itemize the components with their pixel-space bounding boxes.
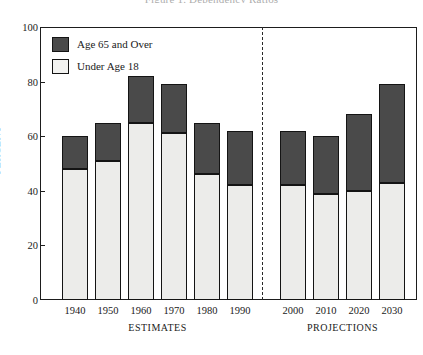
y-tick-label-40: 40 — [0, 185, 38, 196]
x-tick-label-2000: 2000 — [283, 305, 304, 316]
x-tick-label-1960: 1960 — [131, 305, 152, 316]
bar-2030 — [379, 84, 405, 300]
x-tick-label-2030: 2030 — [382, 305, 403, 316]
bar-segment-young-1990 — [227, 185, 253, 300]
bar-segment-old-1940 — [62, 136, 88, 169]
bar-segment-young-1970 — [161, 133, 187, 300]
x-tick-label-1980: 1980 — [197, 305, 218, 316]
bar-segment-young-2030 — [379, 183, 405, 300]
legend-swatch-old-icon — [52, 37, 69, 52]
bar-2010 — [313, 136, 339, 300]
bar-segment-young-1960 — [128, 123, 154, 300]
bar-segment-young-1940 — [62, 169, 88, 300]
x-tick-label-1990: 1990 — [230, 305, 251, 316]
bar-segment-old-2020 — [346, 114, 372, 190]
bar-segment-old-1950 — [95, 123, 121, 161]
y-tick-label-0: 0 — [0, 295, 38, 306]
legend-item-old: Age 65 and Over — [52, 36, 152, 52]
bar-1970 — [161, 84, 187, 300]
y-tick-label-20: 20 — [0, 240, 38, 251]
chart-root: Figure 1. Dependency Ratios PERCENT 0204… — [0, 0, 423, 355]
bar-segment-young-2020 — [346, 191, 372, 300]
x-tick-label-1950: 1950 — [98, 305, 119, 316]
bar-1940 — [62, 136, 88, 300]
bar-segment-old-2010 — [313, 136, 339, 193]
group-label-estimates: ESTIMATES — [128, 322, 186, 333]
x-tick-label-1970: 1970 — [164, 305, 185, 316]
bar-segment-young-2010 — [313, 194, 339, 300]
bar-1980 — [194, 123, 220, 300]
x-tick-label-2020: 2020 — [349, 305, 370, 316]
bar-2000 — [280, 131, 306, 300]
y-tick-label-80: 80 — [0, 76, 38, 87]
bar-2020 — [346, 114, 372, 300]
bar-segment-young-2000 — [280, 185, 306, 300]
bar-1960 — [128, 76, 154, 300]
bar-segment-old-1970 — [161, 84, 187, 133]
bar-segment-old-1980 — [194, 123, 220, 175]
y-tick-label-100: 100 — [0, 22, 38, 33]
legend: Age 65 and Over Under Age 18 — [52, 36, 152, 80]
y-tick-label-60: 60 — [0, 131, 38, 142]
bar-segment-old-2000 — [280, 131, 306, 186]
bar-segment-young-1950 — [95, 161, 121, 300]
bar-segment-old-1960 — [128, 76, 154, 122]
legend-item-young: Under Age 18 — [52, 58, 152, 74]
bar-segment-young-1980 — [194, 174, 220, 300]
legend-swatch-young-icon — [52, 59, 69, 74]
group-label-projections: PROJECTIONS — [307, 322, 378, 333]
legend-label-old: Age 65 and Over — [77, 38, 152, 50]
bar-segment-old-2030 — [379, 84, 405, 182]
chart-title: Figure 1. Dependency Ratios — [0, 0, 423, 3]
legend-label-young: Under Age 18 — [77, 60, 139, 72]
x-tick-label-2010: 2010 — [316, 305, 337, 316]
bar-segment-old-1990 — [227, 131, 253, 186]
bar-1950 — [95, 123, 121, 300]
bar-1990 — [227, 131, 253, 300]
x-tick-label-1940: 1940 — [65, 305, 86, 316]
